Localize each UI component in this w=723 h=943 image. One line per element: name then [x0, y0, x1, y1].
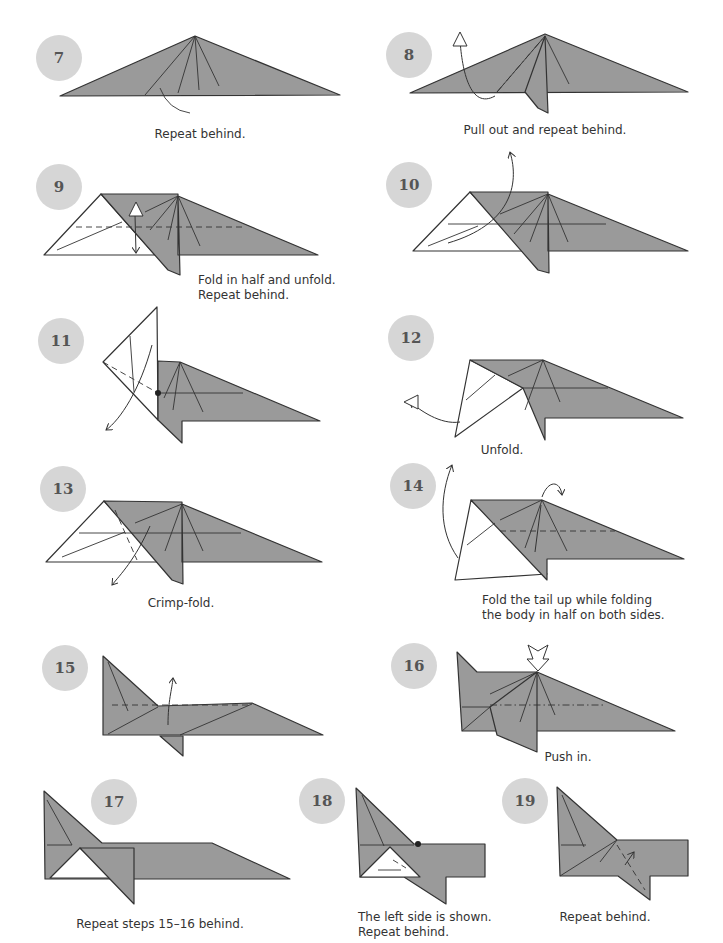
step-caption: Fold in half and unfold.Repeat behind. [198, 273, 336, 303]
step-caption: Fold the tail up while foldingthe body i… [482, 593, 665, 623]
caption-line: Pull out and repeat behind. [464, 123, 627, 138]
paper-layer-step-19 [557, 787, 688, 900]
step-caption: Repeat behind. [559, 910, 650, 925]
hollow-arrow-icon-step-16 [527, 645, 549, 671]
caption-line: Repeat behind. [154, 127, 245, 142]
step-caption: Repeat behind. [154, 127, 245, 142]
step-caption: Push in. [544, 750, 591, 765]
hollow-arrow-icon-step-8 [453, 32, 467, 46]
step-caption: Unfold. [481, 443, 524, 458]
caption-line: Repeat behind. [198, 288, 336, 303]
step-number-badge: 18 [299, 778, 345, 824]
origami-instructions-page: 7Repeat behind.8Pull out and repeat behi… [0, 0, 723, 943]
caption-line: Fold in half and unfold. [198, 273, 336, 288]
paper-layer-step-7 [60, 36, 340, 96]
step-caption: Repeat steps 15–16 behind. [76, 917, 243, 932]
step-number-badge: 13 [40, 466, 86, 512]
reference-point-step-11 [155, 390, 161, 396]
caption-line: Repeat behind. [358, 925, 492, 940]
step-number-badge: 7 [36, 35, 82, 81]
caption-line: Fold the tail up while folding [482, 593, 665, 608]
caption-line: Crimp-fold. [148, 596, 215, 611]
caption-line: Push in. [544, 750, 591, 765]
paper-layer-step-11 [158, 361, 320, 443]
caption-line: Unfold. [481, 443, 524, 458]
paper-layer-step-11 [103, 307, 158, 420]
step-number-badge: 17 [91, 779, 137, 825]
paper-layer-step-15 [103, 656, 323, 735]
step-number-badge: 9 [36, 164, 82, 210]
step-number-badge: 19 [502, 778, 548, 824]
paper-layer-step-18 [356, 788, 485, 904]
step-number-badge: 11 [38, 318, 84, 364]
hollow-arrow-icon-step-12 [404, 395, 418, 409]
step-number-badge: 12 [388, 315, 434, 361]
paper-layer-step-8 [410, 34, 688, 93]
caption-line: Repeat steps 15–16 behind. [76, 917, 243, 932]
reference-point-step-18 [415, 841, 421, 847]
caption-line: the body in half on both sides. [482, 608, 665, 623]
paper-layer-step-15 [160, 736, 183, 756]
paper-layer-step-16 [457, 652, 675, 731]
step-number-badge: 10 [386, 162, 432, 208]
step-caption: The left side is shown.Repeat behind. [358, 910, 492, 940]
step-caption: Crimp-fold. [148, 596, 215, 611]
step-number-badge: 14 [390, 463, 436, 509]
step-number-badge: 15 [42, 645, 88, 691]
fold-arrow-icon-step-14 [443, 465, 458, 558]
caption-line: Repeat behind. [559, 910, 650, 925]
step-number-badge: 16 [391, 643, 437, 689]
step-number-badge: 8 [386, 32, 432, 78]
caption-line: The left side is shown. [358, 910, 492, 925]
step-caption: Pull out and repeat behind. [464, 123, 627, 138]
